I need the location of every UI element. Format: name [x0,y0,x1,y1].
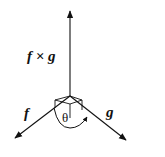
label-f: f [24,105,31,121]
angle-arc [54,108,87,128]
right-angle-marker [55,96,82,118]
vector-g [70,96,126,140]
label-theta: θ [62,110,68,125]
label-g: g [105,104,114,120]
cross-product-diagram: f × g f g θ [0,0,165,157]
label-f-cross-g: f × g [27,48,56,64]
